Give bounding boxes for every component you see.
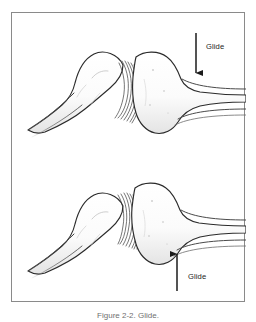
distal-bone-bottom — [132, 183, 246, 264]
figure-root: Glide Glide Figure 2-2. Glide. — [0, 0, 256, 322]
proximal-bone-top — [27, 52, 123, 137]
figure-frame: Glide Glide — [11, 12, 245, 302]
figure-caption: Figure 2-2. Glide. — [0, 312, 256, 322]
glide-label-top: Glide — [206, 43, 224, 51]
glide-label-bottom: Glide — [188, 273, 206, 281]
distal-bone-top — [133, 52, 246, 133]
joint-glide-illustration — [12, 13, 246, 303]
proximal-bone-bottom — [27, 193, 123, 278]
panel-glided-joint — [27, 183, 246, 291]
